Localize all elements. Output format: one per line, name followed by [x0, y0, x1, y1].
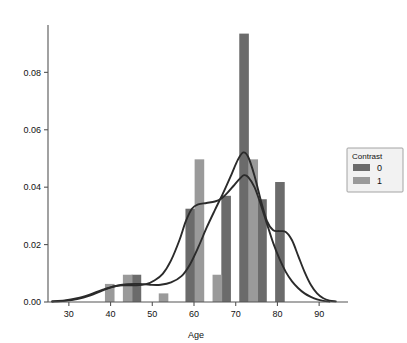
x-axis-title: Age: [188, 330, 204, 340]
legend-swatch-0[interactable]: [353, 164, 370, 171]
histogram-bar-1: [195, 159, 205, 302]
histogram-bar-1: [123, 275, 133, 302]
histogram-bar-0: [275, 182, 285, 302]
histogram-bar-0: [221, 196, 231, 302]
y-tick-label: 0.04: [23, 182, 41, 192]
legend-label-0[interactable]: 0: [377, 163, 382, 173]
y-tick-label: 0.06: [23, 125, 41, 135]
x-tick-label: 70: [231, 309, 241, 319]
bars-layer: [105, 34, 285, 302]
histogram-bar-1: [213, 275, 223, 302]
legend-swatch-1[interactable]: [353, 177, 370, 184]
legend-label-1[interactable]: 1: [377, 176, 382, 186]
histogram-bar-1: [159, 293, 169, 302]
chart-canvas: 30405060708090 0.000.020.040.060.08 Age …: [0, 0, 407, 343]
x-tick-label: 90: [314, 309, 324, 319]
histogram-bar-0: [239, 34, 249, 302]
y-tick-label: 0.08: [23, 68, 41, 78]
x-axis-ticks: 30405060708090: [64, 302, 324, 319]
y-axis-ticks: 0.000.020.040.060.08: [23, 68, 48, 308]
x-tick-label: 80: [272, 309, 282, 319]
histogram-chart: 30405060708090 0.000.020.040.060.08 Age …: [0, 0, 407, 343]
y-tick-label: 0.02: [23, 240, 41, 250]
legend-title: Contrast: [352, 152, 383, 161]
histogram-bar-0: [132, 275, 142, 302]
chart-legend[interactable]: Contrast 01: [347, 148, 403, 192]
x-tick-label: 60: [189, 309, 199, 319]
x-tick-label: 50: [147, 309, 157, 319]
x-tick-label: 40: [106, 309, 116, 319]
y-tick-label: 0.00: [23, 297, 41, 307]
x-tick-label: 30: [64, 309, 74, 319]
